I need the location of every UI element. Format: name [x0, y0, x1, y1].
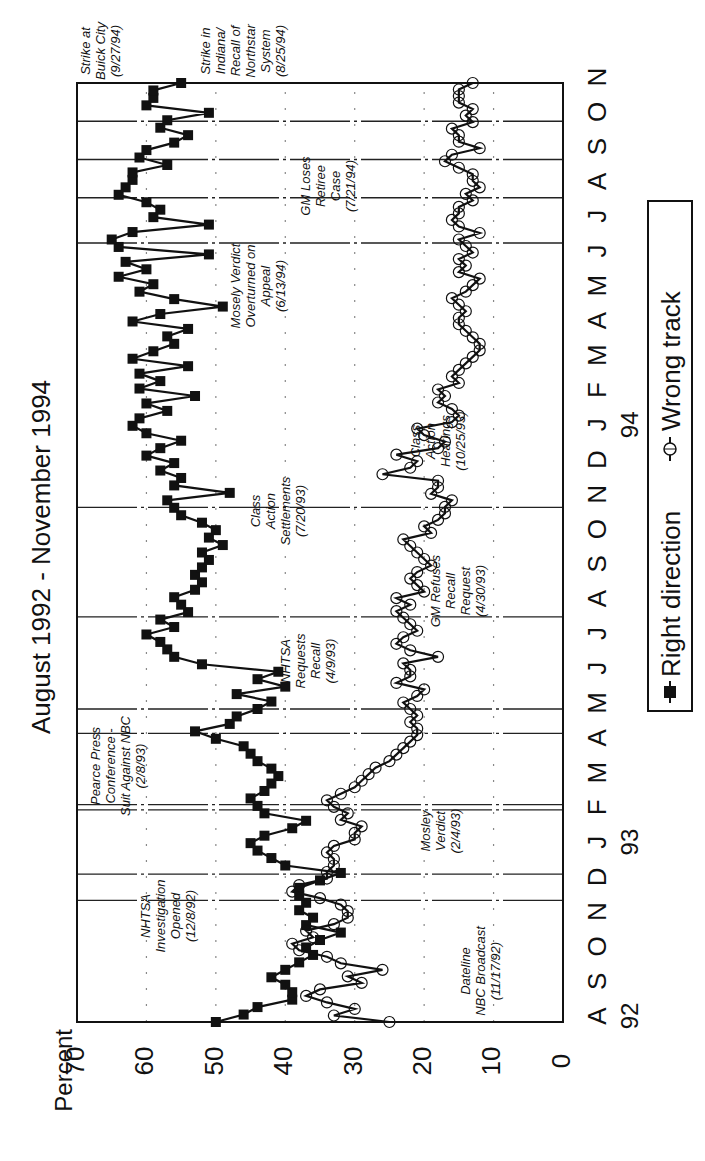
chart-title: August 1992 - November 1994 — [26, 380, 56, 734]
annotation-strike-buick: Strike atBuick City(9/27/94) — [78, 21, 123, 80]
filled-square-marker-icon — [162, 406, 172, 416]
filled-square-marker-icon — [141, 197, 151, 207]
filled-square-marker-icon — [162, 160, 172, 170]
filled-square-marker-icon — [128, 227, 138, 237]
filled-square-marker-icon — [107, 235, 117, 245]
x-month-label: M — [582, 275, 612, 297]
line-chart: August 1992 - November 1994 Percent 0102… — [0, 0, 705, 1161]
filled-square-marker-icon — [218, 540, 228, 550]
legend-label-wrong-track: Wrong track — [656, 290, 686, 431]
x-month-label: D — [582, 867, 612, 886]
filled-square-marker-icon — [141, 145, 151, 155]
filled-square-marker-icon — [190, 726, 200, 736]
filled-square-marker-icon — [246, 838, 256, 848]
y-axis-ticks: 010203040506070 — [60, 1047, 576, 1076]
y-tick-label: 30 — [338, 1047, 368, 1076]
legend-item-right-direction: Right direction — [656, 511, 686, 703]
x-month-label: J — [582, 836, 612, 849]
x-year-label: 93 — [616, 829, 643, 856]
filled-square-marker-icon — [253, 674, 263, 684]
x-month-label: M — [582, 762, 612, 784]
filled-square-marker-icon — [183, 324, 193, 334]
filled-square-marker-icon — [211, 525, 221, 535]
filled-square-marker-icon — [169, 138, 179, 148]
x-month-label: N — [582, 902, 612, 921]
filled-square-marker-icon — [664, 686, 676, 698]
annotation-nhtsa-requests: NHTSARequestsRecall(4/9/93) — [278, 633, 338, 688]
x-month-label: F — [582, 382, 612, 398]
x-month-label: A — [582, 589, 612, 607]
filled-square-marker-icon — [155, 376, 165, 386]
filled-square-marker-icon — [294, 957, 304, 967]
filled-square-marker-icon — [169, 294, 179, 304]
y-tick-label: 20 — [407, 1047, 437, 1076]
filled-square-marker-icon — [169, 592, 179, 602]
y-tick-label: 40 — [268, 1047, 298, 1076]
x-axis-month-labels: ASONDJFMAMJJASONDJFMAMJJASON — [582, 68, 612, 1025]
filled-square-marker-icon — [266, 972, 276, 982]
filled-square-marker-icon — [301, 816, 311, 826]
filled-square-marker-icon — [176, 436, 186, 446]
filled-square-marker-icon — [155, 466, 165, 476]
filled-square-marker-icon — [253, 1002, 263, 1012]
filled-square-marker-icon — [155, 637, 165, 647]
y-tick-label: 50 — [199, 1047, 229, 1076]
x-axis-year-labels: 929394 — [616, 411, 643, 1029]
filled-square-marker-icon — [162, 331, 172, 341]
filled-square-marker-icon — [155, 615, 165, 625]
filled-square-marker-icon — [155, 443, 165, 453]
filled-square-marker-icon — [280, 965, 290, 975]
x-month-label: O — [582, 519, 612, 539]
x-month-label: A — [582, 311, 612, 329]
event-lines — [77, 121, 563, 900]
filled-square-marker-icon — [266, 853, 276, 863]
x-month-label: A — [582, 1007, 612, 1025]
filled-square-marker-icon — [266, 697, 276, 707]
y-tick-label: 60 — [129, 1047, 159, 1076]
filled-square-marker-icon — [183, 130, 193, 140]
filled-square-marker-icon — [141, 629, 151, 639]
filled-square-marker-icon — [273, 667, 283, 677]
filled-square-marker-icon — [148, 346, 158, 356]
filled-square-marker-icon — [287, 823, 297, 833]
chart-stage: August 1992 - November 1994 Percent 0102… — [0, 0, 705, 1161]
filled-square-marker-icon — [204, 249, 214, 259]
x-month-label: M — [582, 692, 612, 714]
wrong-track-line — [292, 83, 479, 1022]
x-month-label: D — [582, 450, 612, 469]
filled-square-marker-icon — [259, 831, 269, 841]
filled-square-marker-icon — [148, 85, 158, 95]
filled-square-marker-icon — [232, 689, 242, 699]
filled-square-marker-icon — [141, 398, 151, 408]
x-month-label: N — [582, 485, 612, 504]
filled-square-marker-icon — [141, 451, 151, 461]
filled-square-marker-icon — [141, 264, 151, 274]
filled-square-marker-icon — [162, 115, 172, 125]
x-month-label: J — [582, 627, 612, 640]
filled-square-marker-icon — [211, 734, 221, 744]
annotation-dateline: DatelineNBC Broadcast(11/17/92) — [458, 925, 503, 1016]
filled-square-marker-icon — [280, 682, 290, 692]
x-month-label: S — [582, 973, 612, 990]
filled-square-marker-icon — [176, 473, 186, 483]
legend-label-right-direction: Right direction — [656, 511, 686, 677]
filled-square-marker-icon — [183, 361, 193, 371]
x-month-label: A — [582, 172, 612, 190]
filled-square-marker-icon — [239, 1010, 249, 1020]
filled-square-marker-icon — [204, 220, 214, 230]
annotation-mosely-overturned: Mosely VerdictOverturned onAppeal(6/13/9… — [228, 242, 288, 328]
filled-square-marker-icon — [280, 861, 290, 871]
filled-square-marker-icon — [280, 980, 290, 990]
filled-square-marker-icon — [128, 354, 138, 364]
filled-square-marker-icon — [176, 78, 186, 88]
filled-square-marker-icon — [128, 316, 138, 326]
filled-square-marker-icon — [197, 518, 207, 528]
x-year-label: 92 — [616, 1003, 643, 1030]
filled-square-marker-icon — [266, 764, 276, 774]
filled-square-marker-icon — [128, 167, 138, 177]
filled-square-marker-icon — [162, 495, 172, 505]
annotation-pearce-press: Pearce PressConference -Suit Against NBC… — [88, 715, 148, 816]
filled-square-marker-icon — [253, 704, 263, 714]
filled-square-marker-icon — [134, 384, 144, 394]
x-year-label: 94 — [616, 411, 643, 438]
